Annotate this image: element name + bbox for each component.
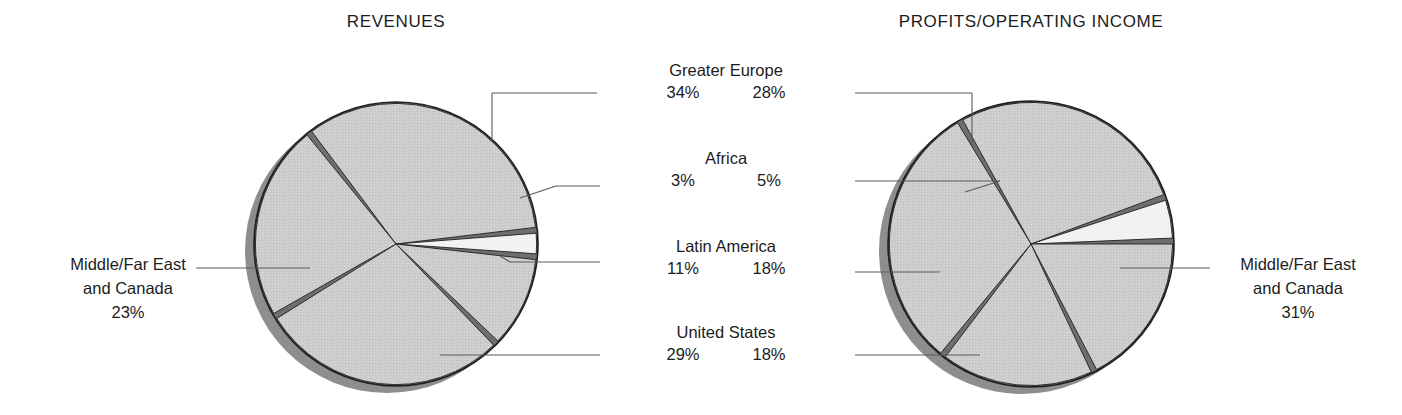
callout-middle-far-east-canada-revenues: Middle/Far East and Canada 23% — [38, 252, 218, 324]
value-profits-latin-america: 18% — [726, 258, 812, 279]
pie-chart-figure: REVENUES PROFITS/OPERATING INCOME Greate… — [0, 0, 1402, 415]
center-callout-labels: Greater Europe 34%28% Africa 3%5% Latin … — [592, 0, 860, 415]
value-revenues-greater-europe: 34% — [640, 82, 726, 103]
value-profits-middle-far-east-canada: 31% — [1208, 300, 1388, 324]
value-profits-africa: 5% — [726, 170, 812, 191]
side-label-left-line1: Middle/Far East — [38, 252, 218, 276]
callout-united-states: United States 29%18% — [592, 322, 860, 365]
callout-middle-far-east-canada-profits: Middle/Far East and Canada 31% — [1208, 252, 1388, 324]
side-label-right-line1: Middle/Far East — [1208, 252, 1388, 276]
value-profits-united-states: 18% — [726, 344, 812, 365]
value-profits-greater-europe: 28% — [726, 82, 812, 103]
callout-africa: Africa 3%5% — [592, 148, 860, 191]
callout-greater-europe: Greater Europe 34%28% — [592, 60, 860, 103]
callout-label-latin-america: Latin America — [592, 236, 860, 257]
value-revenues-middle-far-east-canada: 23% — [38, 300, 218, 324]
side-label-left-line2: and Canada — [38, 276, 218, 300]
callout-values-latin-america: 11%18% — [592, 258, 860, 279]
callout-values-africa: 3%5% — [592, 170, 860, 191]
callout-label-greater-europe: Greater Europe — [592, 60, 860, 81]
side-label-right-line2: and Canada — [1208, 276, 1388, 300]
callout-label-united-states: United States — [592, 322, 860, 343]
callout-label-africa: Africa — [592, 148, 860, 169]
callout-values-united-states: 29%18% — [592, 344, 860, 365]
value-revenues-latin-america: 11% — [640, 258, 726, 279]
value-revenues-africa: 3% — [640, 170, 726, 191]
value-revenues-united-states: 29% — [640, 344, 726, 365]
callout-values-greater-europe: 34%28% — [592, 82, 860, 103]
callout-latin-america: Latin America 11%18% — [592, 236, 860, 279]
